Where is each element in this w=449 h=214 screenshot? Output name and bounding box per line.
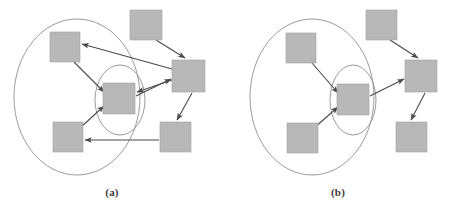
edge-a-top-left-to-a-center — [74, 62, 104, 92]
figure-root: (a) (b) — [0, 0, 449, 214]
node-b-top-middle — [366, 10, 397, 40]
node-a-bottom-right — [160, 122, 191, 152]
node-a-top-middle — [130, 10, 162, 40]
edge-a-right-to-a-top-left — [82, 44, 172, 69]
edge-b-right-to-b-bottom-right — [411, 93, 425, 120]
edge-a-bottom-left-to-a-center — [80, 106, 104, 128]
edge-a-right-to-a-center — [137, 80, 172, 92]
panel-b-caption: (b) — [318, 186, 358, 198]
node-b-right — [405, 60, 437, 92]
node-b-top-left — [286, 33, 316, 63]
edge-b-top-middle-to-b-right — [390, 40, 418, 58]
diagram-canvas — [0, 0, 449, 214]
node-a-center — [103, 83, 135, 114]
panel-b — [250, 10, 437, 175]
node-a-bottom-left — [53, 122, 83, 152]
edge-a-right-to-a-bottom-right — [177, 93, 192, 120]
node-b-bottom-right — [396, 122, 427, 152]
panel-a-caption: (a) — [92, 186, 132, 198]
node-a-top-left — [50, 32, 80, 62]
node-b-center — [337, 84, 369, 115]
edge-b-top-left-to-b-center — [312, 63, 338, 93]
node-a-right — [172, 60, 205, 92]
node-b-bottom-left — [287, 123, 318, 153]
edge-b-center-to-b-right — [370, 79, 404, 96]
edge-a-top-middle-to-a-right — [156, 40, 185, 58]
panel-a — [14, 10, 205, 175]
